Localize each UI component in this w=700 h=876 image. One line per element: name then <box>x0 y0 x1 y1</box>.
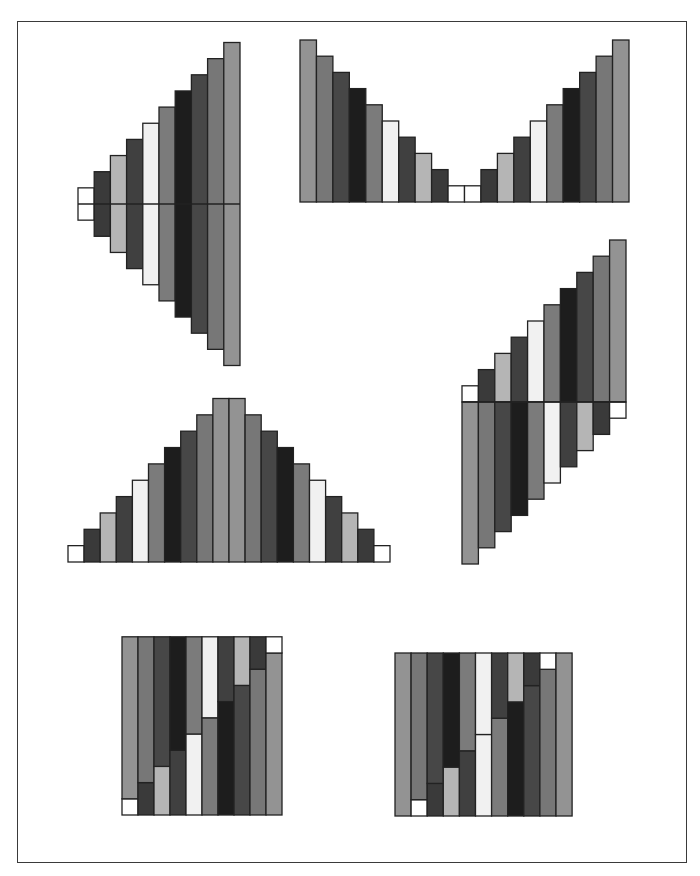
bar-rank-6 <box>366 105 382 202</box>
bar-rank-10 <box>556 653 572 816</box>
bar-rank-1 <box>411 800 427 816</box>
bar-rank-4 <box>459 751 475 816</box>
bar-rank-10 <box>300 40 316 202</box>
bar-rank-6 <box>186 637 202 734</box>
bar-rank-5 <box>310 480 326 562</box>
bar-rank-4 <box>514 137 530 202</box>
bar-rank-2 <box>358 529 374 562</box>
bar-rank-5 <box>476 735 492 817</box>
bar-rank-8 <box>181 431 197 562</box>
bar-rank-4 <box>170 750 186 815</box>
bar-rank-8 <box>524 686 540 816</box>
bar-rank-8 <box>234 685 250 815</box>
bar-rank-7 <box>563 89 579 202</box>
bar-rank-3 <box>495 353 511 402</box>
bar-rank-1 <box>68 546 84 562</box>
bar-rank-9 <box>540 669 556 816</box>
bar-rank-9 <box>138 637 154 783</box>
bar-rank-1 <box>610 402 626 418</box>
bar-rank-8 <box>495 402 511 532</box>
bar-rank-3 <box>342 513 358 562</box>
bar-rank-5 <box>186 734 202 815</box>
bar-rank-7 <box>508 702 524 816</box>
bar-rank-7 <box>560 289 576 402</box>
bar-rank-3 <box>497 153 513 202</box>
bar-rank-2 <box>84 529 100 562</box>
bar-rank-10 <box>613 40 629 202</box>
bar-rank-7 <box>170 637 186 750</box>
stacked-rectangle-panel-10 <box>122 637 282 815</box>
bar-rank-2 <box>524 653 540 686</box>
bar-rank-3 <box>234 637 250 686</box>
bar-rank-9 <box>593 256 609 402</box>
bar-rank-4 <box>326 497 342 562</box>
bar-rank-1 <box>465 186 481 202</box>
bar-rank-7 <box>218 702 234 815</box>
bar-rank-7 <box>511 402 527 515</box>
bar-rank-9 <box>478 402 494 548</box>
bar-rank-3 <box>443 767 459 816</box>
bar-rank-3 <box>100 513 116 562</box>
bar-rank-6 <box>149 464 165 562</box>
bar-rank-5 <box>132 480 148 562</box>
bar-rank-7 <box>349 89 365 202</box>
bar-rank-2 <box>481 170 497 202</box>
bar-rank-8 <box>580 72 596 202</box>
bar-rank-5 <box>476 653 492 735</box>
bar-rank-6 <box>528 402 544 499</box>
bar-rank-10 <box>462 402 478 564</box>
bar-rank-4 <box>511 337 527 402</box>
bar-rank-5 <box>530 121 546 202</box>
bar-rank-9 <box>596 56 612 202</box>
bar-rank-6 <box>547 105 563 202</box>
bar-rank-5 <box>528 321 544 402</box>
bar-rank-6 <box>202 718 218 815</box>
bar-rank-6 <box>459 653 475 751</box>
bar-rank-4 <box>218 637 234 702</box>
bar-rank-3 <box>508 653 524 702</box>
bar-rank-9 <box>245 415 261 562</box>
bar-rank-9 <box>316 56 332 202</box>
bar-rank-2 <box>138 783 154 815</box>
pyramid-bar-panel <box>68 399 390 563</box>
bar-arrangements-diagram <box>0 0 700 876</box>
bar-rank-10 <box>610 240 626 402</box>
bar-rank-6 <box>492 718 508 816</box>
bar-rank-1 <box>266 637 282 653</box>
bar-rank-4 <box>116 497 132 562</box>
bar-rank-2 <box>432 170 448 202</box>
bar-rank-7 <box>165 448 181 562</box>
bar-rank-10 <box>395 653 411 816</box>
stacked-rectangle-panel-11 <box>395 653 572 816</box>
bar-rank-7 <box>443 653 459 767</box>
bar-rank-3 <box>154 766 170 815</box>
bar-rank-8 <box>333 72 349 202</box>
bar-rank-3 <box>415 153 431 202</box>
bar-rank-7 <box>277 448 293 562</box>
bar-rank-1 <box>462 386 478 402</box>
bar-rank-1 <box>448 186 464 202</box>
bar-rank-4 <box>560 402 576 467</box>
bar-rank-1 <box>122 799 138 815</box>
bar-rank-10 <box>229 399 245 563</box>
bar-rank-10 <box>122 637 138 799</box>
bar-rank-8 <box>154 637 170 767</box>
bar-rank-8 <box>261 431 277 562</box>
bar-rank-2 <box>478 370 494 402</box>
bar-rank-4 <box>492 653 508 718</box>
bar-rank-6 <box>544 305 560 402</box>
bar-rank-9 <box>250 669 266 815</box>
bar-rank-10 <box>213 399 229 563</box>
bar-rank-5 <box>382 121 398 202</box>
staircase-bar-panel <box>462 240 626 564</box>
bar-rank-2 <box>250 637 266 669</box>
bar-rank-6 <box>293 464 309 562</box>
bar-rank-2 <box>427 783 443 816</box>
valley-bar-panel <box>300 40 629 202</box>
bar-rank-1 <box>540 653 556 669</box>
bar-rank-9 <box>197 415 213 562</box>
bar-rank-3 <box>577 402 593 451</box>
bar-rank-5 <box>544 402 560 483</box>
bar-rank-2 <box>593 402 609 434</box>
bar-rank-8 <box>427 653 443 783</box>
